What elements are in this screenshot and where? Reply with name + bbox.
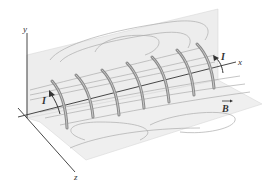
z-axis-label: z <box>73 172 78 181</box>
current-label-right: I <box>220 51 226 62</box>
x-axis-label: x <box>237 57 242 67</box>
y-axis-label: y <box>22 24 27 34</box>
solenoid-field-diagram: y x z I I B <box>0 0 272 181</box>
svg-text:B: B <box>221 103 229 114</box>
